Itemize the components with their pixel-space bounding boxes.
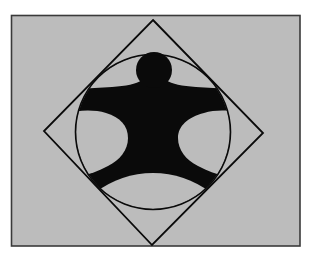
circle-diamond-figure-diagram (0, 0, 316, 271)
head-circle (136, 52, 172, 88)
